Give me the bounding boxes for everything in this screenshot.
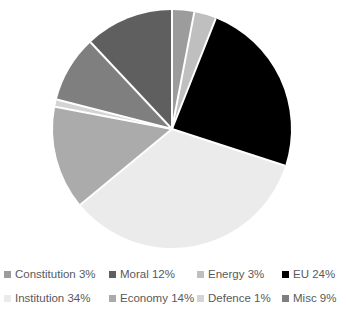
legend-row: Institution 34% Economy 14% Defence 1% M…: [4, 286, 344, 310]
legend-item-economy[interactable]: Economy 14%: [109, 292, 197, 305]
legend-item-label: Defence 1%: [208, 292, 271, 305]
legend-item-label: Economy 14%: [120, 292, 194, 305]
pie-chart-svg: [0, 0, 346, 256]
legend-item-energy[interactable]: Energy 3%: [197, 268, 282, 281]
legend-item-moral[interactable]: Moral 12%: [109, 268, 197, 281]
legend-swatch-icon: [282, 295, 289, 302]
pie-chart-plot-area: [0, 0, 346, 256]
legend-item-label: Constitution 3%: [15, 268, 96, 281]
legend-swatch-icon: [109, 271, 116, 278]
legend-item-label: Moral 12%: [120, 268, 175, 281]
legend-item-label: Misc 9%: [293, 292, 336, 305]
legend-item-institution[interactable]: Institution 34%: [4, 292, 109, 305]
chart-legend: Constitution 3% Moral 12% Energy 3% EU 2…: [0, 258, 346, 317]
legend-swatch-icon: [197, 295, 204, 302]
legend-swatch-icon: [109, 295, 116, 302]
legend-item-label: EU 24%: [293, 268, 335, 281]
legend-item-defence[interactable]: Defence 1%: [197, 292, 282, 305]
legend-row: Constitution 3% Moral 12% Energy 3% EU 2…: [4, 262, 344, 286]
legend-item-label: Institution 34%: [15, 292, 90, 305]
pie-chart-figure: Constitution 3% Moral 12% Energy 3% EU 2…: [0, 0, 346, 317]
legend-item-misc[interactable]: Misc 9%: [282, 292, 344, 305]
legend-swatch-icon: [197, 271, 204, 278]
legend-item-label: Energy 3%: [208, 268, 264, 281]
legend-swatch-icon: [4, 271, 11, 278]
legend-item-constitution[interactable]: Constitution 3%: [4, 268, 109, 281]
legend-item-eu[interactable]: EU 24%: [282, 268, 344, 281]
legend-swatch-icon: [4, 295, 11, 302]
legend-swatch-icon: [282, 271, 289, 278]
